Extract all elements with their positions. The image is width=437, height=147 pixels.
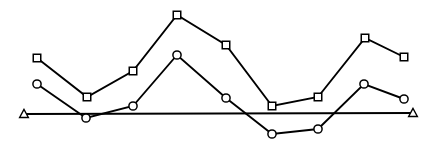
line-chart-figure: [0, 0, 437, 147]
data-point-circle: [222, 94, 230, 102]
data-point-circle: [173, 51, 181, 59]
data-point-circle: [268, 130, 276, 138]
data-point-square: [173, 11, 181, 19]
data-point-circle: [82, 114, 90, 122]
data-point-circle: [314, 125, 322, 133]
series-triangles-line: [24, 113, 413, 114]
data-point-square: [268, 102, 276, 110]
data-point-circle: [400, 95, 408, 103]
data-point-square: [400, 53, 408, 61]
data-point-square: [83, 93, 91, 101]
chart-canvas: [0, 0, 437, 147]
data-point-circle: [129, 102, 137, 110]
data-point-circle: [33, 80, 41, 88]
data-point-square: [314, 93, 322, 101]
data-point-square: [361, 34, 369, 42]
data-point-square: [129, 67, 137, 75]
data-point-square: [33, 54, 41, 62]
data-point-square: [222, 41, 230, 49]
data-point-circle: [360, 80, 368, 88]
